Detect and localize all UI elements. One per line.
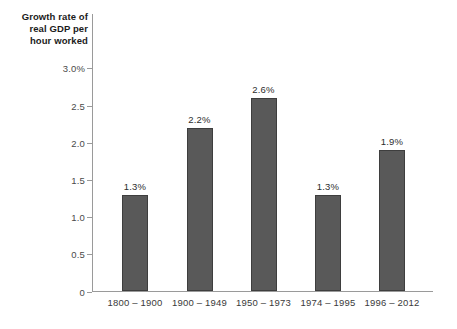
bar-chart: Growth rate of real GDP per hour worked … bbox=[0, 0, 457, 329]
y-tick-mark bbox=[87, 180, 92, 181]
bar bbox=[251, 98, 277, 291]
y-tick-mark bbox=[87, 217, 92, 218]
y-tick-mark bbox=[87, 68, 92, 69]
x-category-label: 1800 – 1900 bbox=[107, 297, 162, 308]
x-category-label: 1900 – 1949 bbox=[172, 297, 227, 308]
y-tick-label: 2.5 bbox=[71, 100, 85, 111]
bar bbox=[122, 195, 148, 292]
y-axis-title: Growth rate of real GDP per hour worked bbox=[6, 11, 88, 48]
y-tick-label: 3.0% bbox=[63, 63, 85, 74]
y-tick-label: 2.0 bbox=[71, 137, 85, 148]
y-tick-label: 1.5 bbox=[71, 174, 85, 185]
y-tick-label: 0 bbox=[80, 286, 85, 297]
y-axis-line bbox=[92, 14, 93, 292]
bar bbox=[379, 150, 405, 291]
bar bbox=[315, 195, 341, 292]
y-tick-mark bbox=[87, 106, 92, 107]
bar-value-label: 2.2% bbox=[188, 114, 210, 125]
y-tick-label: 0.5 bbox=[71, 249, 85, 260]
x-category-label: 1950 – 1973 bbox=[236, 297, 291, 308]
bar-value-label: 1.3% bbox=[124, 181, 146, 192]
y-tick-label: 1.0 bbox=[71, 212, 85, 223]
y-tick-mark bbox=[87, 143, 92, 144]
bar-value-label: 1.9% bbox=[381, 136, 403, 147]
bar-value-label: 1.3% bbox=[317, 181, 339, 192]
x-category-label: 1996 – 2012 bbox=[364, 297, 419, 308]
y-tick-mark bbox=[87, 292, 92, 293]
y-tick-mark bbox=[87, 254, 92, 255]
x-category-label: 1974 – 1995 bbox=[300, 297, 355, 308]
bar bbox=[187, 128, 213, 292]
bar-value-label: 2.6% bbox=[252, 84, 274, 95]
